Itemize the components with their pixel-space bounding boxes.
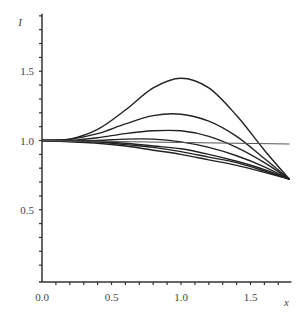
y-tick-label: 0.5 [20,204,34,216]
curves [42,78,289,179]
x-axis-label: x [283,296,289,308]
series-curve-7 [42,141,289,180]
series-curve-4 [42,139,289,179]
series-curve-5 [42,140,289,179]
x-tick-label: 1.5 [244,291,258,303]
series-curve-1 [42,78,289,179]
y-axis-label: I [17,16,23,28]
x-tick-label: 1.0 [174,291,188,303]
line-chart: 0.00.51.01.50.51.01.5xI [0,0,305,314]
y-tick-label: 1.0 [20,135,34,147]
labels: 0.00.51.01.50.51.01.5xI [17,16,289,308]
x-tick-label: 0.0 [35,291,49,303]
y-tick-label: 1.5 [20,65,34,77]
series-curve-6 [42,140,289,179]
x-tick-label: 0.5 [105,291,119,303]
